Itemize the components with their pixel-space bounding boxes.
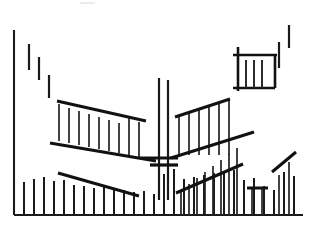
chart-figure [0,0,311,232]
chart-canvas [0,0,311,232]
